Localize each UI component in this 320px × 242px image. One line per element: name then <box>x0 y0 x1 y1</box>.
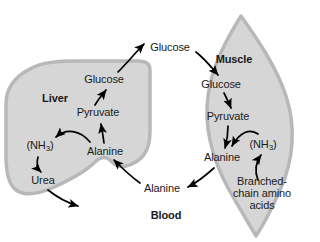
node-muscle-bcaa: Branched-chain amino acids <box>225 176 299 212</box>
compartment-label-muscle: Muscle <box>216 54 253 66</box>
node-blood-glucose: Glucose <box>150 42 190 54</box>
node-liver-glucose: Glucose <box>84 74 124 86</box>
node-liver-urea: Urea <box>31 175 54 187</box>
node-muscle-alanine: Alanine <box>204 152 240 164</box>
node-blood-alanine: Alanine <box>144 183 180 195</box>
node-muscle-ammonia: (NH3) <box>249 139 276 153</box>
arrow-liver-urea-excretion <box>48 190 78 206</box>
arrow-muscle-alanine-to-blood-alanine <box>188 168 214 187</box>
node-muscle-pyruvate: Pyruvate <box>207 111 250 123</box>
node-liver-ammonia: (NH3) <box>26 140 53 154</box>
node-liver-pyruvate: Pyruvate <box>77 107 120 119</box>
node-liver-alanine: Alanine <box>87 146 123 158</box>
node-muscle-glucose: Glucose <box>201 79 241 91</box>
compartment-label-blood: Blood <box>151 210 182 222</box>
compartment-label-liver: Liver <box>42 93 68 105</box>
